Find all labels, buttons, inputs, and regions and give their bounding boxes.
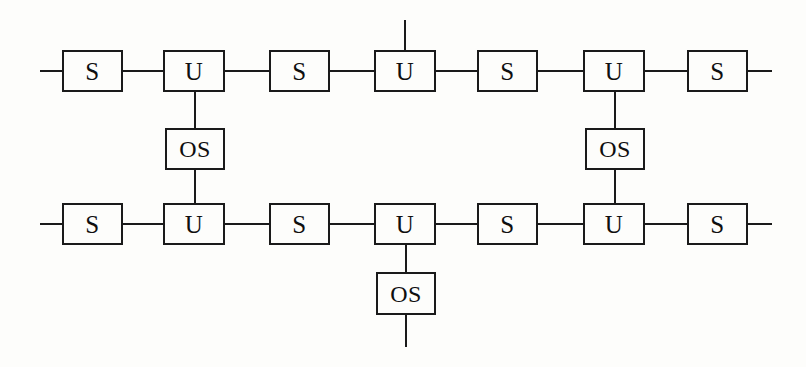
- node-label: OS: [390, 282, 422, 306]
- connector-bot-stub-right: [747, 223, 772, 225]
- node-bot-u-3[interactable]: U: [583, 203, 645, 245]
- connector-right-os-to-u: [614, 169, 616, 204]
- node-top-s-2[interactable]: S: [269, 50, 330, 92]
- connector-top-stub-left: [40, 70, 63, 72]
- connector-left-u-to-os: [194, 91, 196, 129]
- node-bot-s-2[interactable]: S: [269, 203, 330, 245]
- node-bot-os-c[interactable]: OS: [376, 272, 436, 315]
- node-label: U: [185, 59, 204, 84]
- node-label: S: [85, 59, 99, 84]
- connector-bot-u-to-os: [405, 244, 407, 273]
- connector-bot-u3-s4: [644, 223, 688, 225]
- node-top-u-1[interactable]: U: [163, 50, 225, 92]
- connector-bot-u1-s2: [224, 223, 270, 225]
- connector-top-stub-right: [747, 70, 772, 72]
- connector-left-os-to-u: [194, 169, 196, 204]
- node-label: S: [710, 212, 724, 237]
- connector-top-u1-s2: [224, 70, 270, 72]
- node-label: S: [500, 212, 514, 237]
- node-top-u-3[interactable]: U: [583, 50, 645, 92]
- connector-bot-s3-u3: [537, 223, 584, 225]
- node-label: OS: [599, 137, 631, 161]
- connector-bot-s1-u1: [122, 223, 164, 225]
- connector-top-u3-s4: [644, 70, 688, 72]
- diagram-canvas: SUSUSUSOSOSSUSUSUSOS: [0, 0, 806, 367]
- node-top-s-3[interactable]: S: [477, 50, 538, 92]
- connector-right-u-to-os: [614, 91, 616, 129]
- node-label: U: [605, 59, 624, 84]
- node-bot-u-2[interactable]: U: [374, 203, 436, 245]
- node-label: U: [185, 212, 204, 237]
- connector-top-s1-u1: [122, 70, 164, 72]
- node-label: U: [396, 212, 415, 237]
- node-label: S: [710, 59, 724, 84]
- node-label: U: [605, 212, 624, 237]
- node-label: S: [85, 212, 99, 237]
- connector-top-s3-u3: [537, 70, 584, 72]
- node-bot-s-1[interactable]: S: [62, 203, 123, 245]
- connector-top-u2-s3: [435, 70, 478, 72]
- node-label: S: [292, 212, 306, 237]
- node-bot-s-3[interactable]: S: [477, 203, 538, 245]
- node-label: S: [500, 59, 514, 84]
- connector-down-stub-os: [405, 314, 407, 347]
- connector-bot-u2-s3: [435, 223, 478, 225]
- node-bot-s-4[interactable]: S: [687, 203, 748, 245]
- connector-up-stub-u2: [404, 20, 406, 51]
- node-mid-os-l[interactable]: OS: [165, 128, 225, 170]
- node-label: U: [396, 59, 415, 84]
- node-bot-u-1[interactable]: U: [163, 203, 225, 245]
- connector-top-s2-u2: [329, 70, 375, 72]
- node-mid-os-r[interactable]: OS: [585, 128, 645, 170]
- node-top-u-2[interactable]: U: [374, 50, 436, 92]
- connector-bot-s2-u2: [329, 223, 375, 225]
- node-label: OS: [179, 137, 211, 161]
- connector-bot-stub-left: [40, 223, 63, 225]
- node-top-s-4[interactable]: S: [687, 50, 748, 92]
- node-label: S: [292, 59, 306, 84]
- node-top-s-1[interactable]: S: [62, 50, 123, 92]
